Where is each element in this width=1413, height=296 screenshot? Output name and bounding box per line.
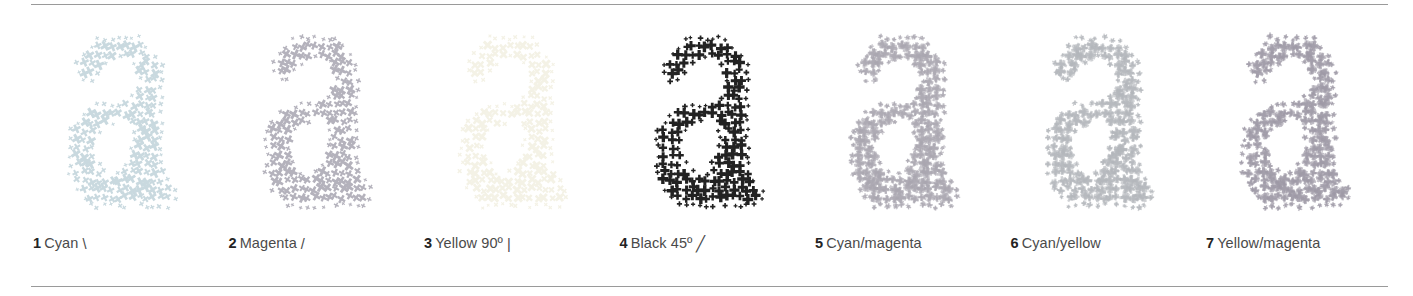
halftone-letter-a-3 [422, 22, 618, 222]
halftone-panel-1: 1Cyan\ [31, 22, 227, 272]
halftone-panel-4: 4Black 45º╱ [618, 22, 814, 272]
panel-row: 1Cyan\2Magenta/3Yellow 90º|4Black 45º╱5C… [31, 22, 1388, 272]
panel-caption-4: 4Black 45º╱ [620, 234, 706, 252]
top-rule [31, 4, 1388, 5]
halftone-letter-a-2 [227, 22, 423, 222]
panel-number: 1 [33, 235, 41, 251]
bottom-rule [31, 286, 1388, 287]
panel-number: 5 [815, 235, 823, 251]
screen-angle-glyph: / [301, 235, 305, 253]
panel-label: Cyan/magenta [826, 235, 922, 251]
halftone-letter-a-1 [31, 22, 227, 222]
panel-caption-3: 3Yellow 90º| [424, 234, 511, 252]
halftone-panel-2: 2Magenta/ [227, 22, 423, 272]
screen-angle-glyph: ╱ [696, 235, 705, 253]
panel-number: 7 [1206, 235, 1214, 251]
panel-label: Yellow 90º [435, 235, 503, 251]
panel-label: Cyan [44, 235, 78, 251]
halftone-panel-3: 3Yellow 90º| [422, 22, 618, 272]
panel-caption-6: 6Cyan/yellow [1011, 234, 1101, 252]
panel-label: Magenta [240, 235, 297, 251]
panel-caption-5: 5Cyan/magenta [815, 234, 922, 252]
halftone-letter-a-4 [618, 22, 814, 222]
screen-angle-glyph: \ [82, 235, 86, 253]
halftone-panel-7: 7Yellow/magenta [1204, 22, 1400, 272]
halftone-panel-5: 5Cyan/magenta [813, 22, 1009, 272]
panel-caption-7: 7Yellow/magenta [1206, 234, 1320, 252]
panel-number: 2 [229, 235, 237, 251]
screen-angle-glyph: | [507, 235, 511, 253]
panel-caption-1: 1Cyan\ [33, 234, 87, 252]
panel-label: Black 45º [631, 235, 693, 251]
panel-caption-2: 2Magenta/ [229, 234, 305, 252]
halftone-figure: 1Cyan\2Magenta/3Yellow 90º|4Black 45º╱5C… [0, 0, 1413, 296]
panel-number: 6 [1011, 235, 1019, 251]
panel-number: 3 [424, 235, 432, 251]
halftone-letter-a-6 [1009, 22, 1205, 222]
panel-number: 4 [620, 235, 628, 251]
panel-label: Yellow/magenta [1217, 235, 1320, 251]
halftone-panel-6: 6Cyan/yellow [1009, 22, 1205, 272]
halftone-letter-a-5 [813, 22, 1009, 222]
panel-label: Cyan/yellow [1022, 235, 1101, 251]
halftone-letter-a-7 [1204, 22, 1400, 222]
